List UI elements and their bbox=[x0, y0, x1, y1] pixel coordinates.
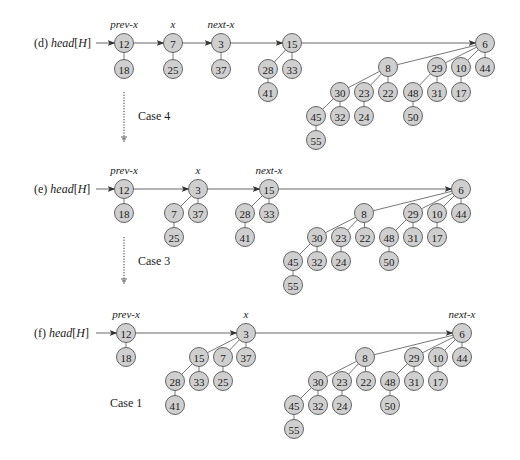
node-key: 6 bbox=[459, 328, 465, 340]
node-key: 31 bbox=[409, 376, 420, 388]
node-key: 55 bbox=[311, 135, 323, 147]
heap-node: 37 bbox=[212, 60, 231, 79]
node-key: 30 bbox=[335, 87, 347, 99]
node-key: 8 bbox=[361, 208, 367, 220]
heap-node: 25 bbox=[165, 228, 184, 247]
heap-node: 41 bbox=[236, 228, 255, 247]
heap-node: 8 bbox=[356, 348, 375, 367]
node-key: 25 bbox=[218, 376, 230, 388]
node-key: 44 bbox=[456, 208, 468, 220]
heap-node: 44 bbox=[453, 348, 472, 367]
node-key: 29 bbox=[432, 62, 444, 74]
node-key: 41 bbox=[170, 400, 181, 412]
node-key: 23 bbox=[337, 376, 349, 388]
heap-node: 17 bbox=[428, 228, 447, 247]
tree-edge bbox=[445, 340, 456, 351]
heap-node: 48 bbox=[380, 228, 399, 247]
node-key: 24 bbox=[336, 256, 348, 268]
tree-edge bbox=[252, 196, 263, 207]
heap-node: 48 bbox=[381, 372, 400, 391]
transition-arrowhead-icon bbox=[121, 279, 127, 283]
heap-node: 7 bbox=[164, 34, 183, 53]
heap-node: 55 bbox=[285, 420, 304, 439]
heap-node: 45 bbox=[285, 396, 304, 415]
row-f-heap: (f) head[H]12183157372833254168291044302… bbox=[34, 308, 476, 439]
heap-node: 33 bbox=[260, 204, 279, 223]
pointer-label-next-x: next-x bbox=[449, 308, 476, 320]
heap-node: 23 bbox=[333, 372, 352, 391]
node-key: 44 bbox=[457, 352, 469, 364]
pointer-label-x: x bbox=[170, 18, 176, 30]
node-key: 18 bbox=[119, 208, 131, 220]
node-key: 30 bbox=[312, 232, 324, 244]
heap-node: 6 bbox=[453, 324, 472, 343]
node-key: 6 bbox=[458, 184, 464, 196]
node-key: 7 bbox=[171, 208, 177, 220]
node-key: 55 bbox=[289, 424, 301, 436]
heap-node: 50 bbox=[404, 107, 423, 126]
node-key: 33 bbox=[264, 208, 276, 220]
node-key: 10 bbox=[456, 62, 468, 74]
pointer-label-prev-x: prev-x bbox=[109, 18, 138, 30]
node-key: 41 bbox=[263, 87, 274, 99]
node-key: 6 bbox=[482, 38, 488, 50]
heap-node: 31 bbox=[404, 228, 423, 247]
tree-edge bbox=[323, 99, 334, 110]
heap-node: 6 bbox=[476, 34, 495, 53]
node-key: 25 bbox=[169, 232, 181, 244]
node-key: 45 bbox=[289, 400, 301, 412]
heap-node: 15 bbox=[283, 34, 302, 53]
case-label: Case 4 bbox=[138, 109, 170, 123]
heap-node: 3 bbox=[237, 324, 256, 343]
row-label-bracket: [H] bbox=[74, 36, 91, 50]
node-key: 37 bbox=[216, 64, 228, 76]
heap-node: 18 bbox=[115, 204, 134, 223]
node-key: 32 bbox=[312, 256, 323, 268]
heap-node: 30 bbox=[331, 83, 350, 102]
heap-node: 12 bbox=[117, 324, 136, 343]
row-label: (d) head[H] bbox=[34, 36, 91, 50]
node-key: 28 bbox=[170, 376, 182, 388]
row-label-head: head bbox=[49, 326, 73, 340]
heap-node: 22 bbox=[357, 372, 376, 391]
heap-node: 7 bbox=[165, 204, 184, 223]
heap-node: 8 bbox=[355, 204, 374, 223]
row-label-bracket: [H] bbox=[72, 326, 89, 340]
node-key: 55 bbox=[288, 280, 300, 292]
node-key: 29 bbox=[408, 208, 420, 220]
node-key: 10 bbox=[433, 352, 445, 364]
node-key: 3 bbox=[243, 328, 249, 340]
node-key: 17 bbox=[456, 87, 468, 99]
heap-node: 32 bbox=[309, 396, 328, 415]
node-key: 25 bbox=[168, 64, 180, 76]
node-key: 7 bbox=[220, 352, 226, 364]
row-label: (f) head[H] bbox=[34, 326, 89, 340]
pointer-label-prev-x: prev-x bbox=[111, 308, 140, 320]
node-key: 22 bbox=[361, 376, 372, 388]
heap-node: 24 bbox=[332, 252, 351, 271]
heap-node: 48 bbox=[404, 83, 423, 102]
heap-node: 7 bbox=[214, 348, 233, 367]
node-key: 23 bbox=[359, 87, 371, 99]
row-label-prefix: (e) bbox=[34, 182, 50, 196]
node-key: 22 bbox=[360, 232, 371, 244]
heap-node: 29 bbox=[405, 348, 424, 367]
heap-node: 3 bbox=[189, 180, 208, 199]
tree-edge bbox=[444, 196, 455, 207]
heap-node: 33 bbox=[190, 372, 209, 391]
tree-edge bbox=[274, 50, 285, 62]
heap-node: 44 bbox=[452, 204, 471, 223]
tree-edge bbox=[181, 196, 192, 207]
heap-node: 30 bbox=[309, 372, 328, 391]
heap-node: 3 bbox=[212, 34, 231, 53]
heap-node: 28 bbox=[259, 60, 278, 79]
heap-node: 37 bbox=[189, 204, 208, 223]
node-key: 22 bbox=[383, 87, 394, 99]
node-key: 33 bbox=[287, 64, 299, 76]
pointer-label-x: x bbox=[195, 164, 201, 176]
tree-edge bbox=[420, 74, 431, 85]
node-key: 12 bbox=[119, 38, 130, 50]
node-key: 33 bbox=[194, 376, 206, 388]
tree-edge bbox=[230, 340, 240, 350]
heap-node: 31 bbox=[428, 83, 447, 102]
